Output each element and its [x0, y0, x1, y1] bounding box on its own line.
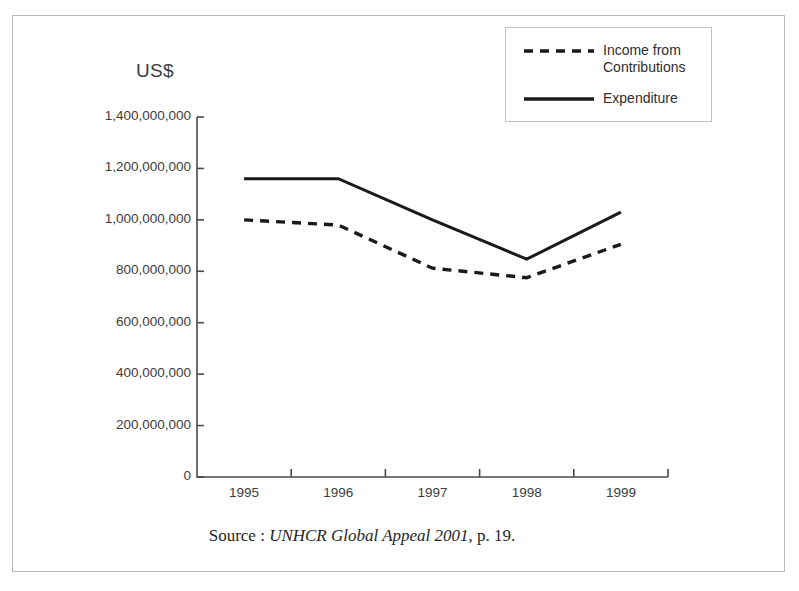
- legend-item-income-from-contributions: Income from Contributions: [506, 42, 711, 76]
- y-tick-label: 0: [63, 468, 191, 483]
- legend-label-income-from-contributions: Income from Contributions: [603, 42, 686, 76]
- y-tick-label: 1,000,000,000: [63, 211, 191, 226]
- legend-swatch-solid-line-icon: [523, 90, 595, 108]
- y-tick-label: 200,000,000: [63, 417, 191, 432]
- source-caption: Source : UNHCR Global Appeal 2001, p. 19…: [12, 526, 712, 546]
- y-tick-label: 1,200,000,000: [63, 159, 191, 174]
- source-title: UNHCR Global Appeal 2001: [269, 526, 468, 545]
- y-axis-tick-labels: 0200,000,000400,000,000600,000,000800,00…: [56, 0, 191, 591]
- legend-label-expenditure: Expenditure: [603, 90, 678, 107]
- legend-item-expenditure: Expenditure: [506, 90, 711, 124]
- y-tick-label: 600,000,000: [63, 314, 191, 329]
- x-tick-label: 1999: [574, 485, 668, 509]
- y-tick-label: 800,000,000: [63, 262, 191, 277]
- source-prefix: Source :: [209, 526, 269, 545]
- x-axis-tick-labels: 19951996199719981999: [197, 485, 668, 509]
- legend-swatch-dashed-line-icon: [523, 42, 595, 60]
- x-tick-label: 1998: [480, 485, 574, 509]
- source-suffix: , p. 19.: [469, 526, 516, 545]
- x-tick-label: 1997: [385, 485, 479, 509]
- y-tick-label: 1,400,000,000: [63, 108, 191, 123]
- y-tick-label: 400,000,000: [63, 365, 191, 380]
- x-tick-label: 1996: [291, 485, 385, 509]
- x-tick-label: 1995: [197, 485, 291, 509]
- chart-legend: Income from Contributions Expenditure: [505, 27, 712, 122]
